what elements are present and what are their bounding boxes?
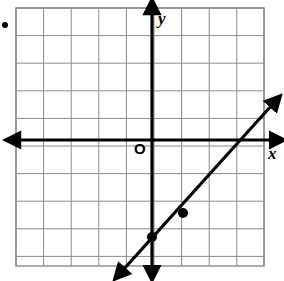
y-axis-label: y <box>158 10 166 27</box>
origin-label: O <box>134 141 146 156</box>
grid <box>16 8 264 266</box>
data-point-marker <box>178 208 188 218</box>
graphed-line <box>123 105 272 270</box>
coordinate-plane-figure: y x O <box>0 0 284 281</box>
data-point-marker <box>147 232 157 242</box>
x-axis-label: x <box>268 145 277 162</box>
bullet-dot <box>2 22 8 28</box>
grid-border <box>16 8 264 266</box>
